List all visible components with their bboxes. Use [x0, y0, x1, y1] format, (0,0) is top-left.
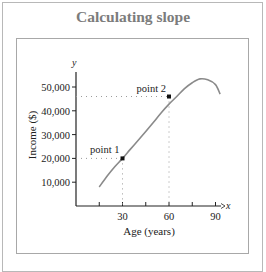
x-ticks: 306090 [99, 202, 221, 222]
point-label: point 2 [137, 83, 166, 94]
point-marker [121, 156, 125, 160]
point-marker [167, 95, 171, 99]
x-tick-label: 30 [117, 211, 128, 222]
x-axis-label: Age (years) [123, 225, 175, 238]
y-ticks: 10,00020,00030,00040,00050,000 [41, 82, 76, 188]
point-label: point 1 [90, 144, 119, 155]
x-tick-label: 60 [164, 211, 175, 222]
x-tick-label: 90 [210, 211, 221, 222]
y-tick-label: 20,000 [41, 153, 70, 164]
x-axis-arrow-icon [221, 204, 225, 209]
income-curve [99, 79, 220, 187]
y-tick-label: 30,000 [41, 130, 70, 141]
y-tick-label: 10,000 [41, 177, 70, 188]
y-axis-letter: y [71, 57, 77, 68]
y-axis-label: Income ($) [26, 110, 39, 159]
y-tick-label: 40,000 [41, 106, 70, 117]
y-tick-label: 50,000 [41, 82, 70, 93]
x-axis-letter: x [225, 200, 231, 211]
